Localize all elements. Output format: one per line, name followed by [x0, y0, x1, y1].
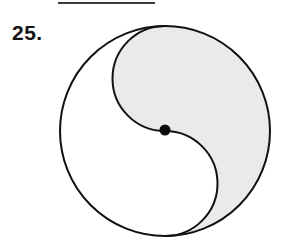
yin-yang-figure	[0, 0, 293, 246]
page-canvas: 25.	[0, 0, 293, 246]
center-dot	[160, 125, 171, 136]
